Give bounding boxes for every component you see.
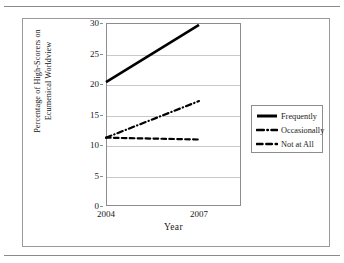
x-axis-ticks: 20042007 bbox=[106, 209, 241, 223]
chart-legend: FrequentlyOccasionallyNot at All bbox=[251, 105, 323, 153]
series-line-occasionally bbox=[106, 101, 199, 138]
y-axis-ticks: 051015202530 bbox=[73, 23, 103, 206]
y-tick-mark bbox=[100, 23, 103, 24]
series-line-not-at-all bbox=[106, 138, 199, 140]
y-tick-label: 15 bbox=[90, 110, 99, 119]
y-tick-mark bbox=[100, 115, 103, 116]
y-tick-label: 25 bbox=[90, 49, 99, 58]
figure-container: Percentage of High-Scorers on Ecumenical… bbox=[22, 18, 330, 247]
y-tick-label: 10 bbox=[90, 141, 99, 150]
y-tick-mark bbox=[100, 145, 103, 146]
y-axis-title-line-2: Ecumenical Worldview bbox=[43, 0, 54, 166]
legend-item[interactable]: Frequently bbox=[256, 109, 319, 123]
x-axis-title: Year bbox=[106, 222, 241, 232]
x-tick-label: 2004 bbox=[97, 209, 115, 219]
x-tick-label: 2007 bbox=[190, 209, 208, 219]
y-axis-title: Percentage of High-Scorers on Ecumenical… bbox=[32, 0, 60, 166]
y-tick-label: 5 bbox=[95, 171, 100, 180]
y-axis-title-line-1: Percentage of High-Scorers on bbox=[32, 0, 43, 166]
legend-swatch-solid-icon bbox=[256, 111, 278, 121]
legend-swatch-dash-dot-icon bbox=[256, 125, 278, 135]
legend-item[interactable]: Occasionally bbox=[256, 123, 319, 137]
page-rule-bottom bbox=[4, 255, 340, 256]
legend-label: Frequently bbox=[281, 112, 317, 121]
legend-swatch-dashed-icon bbox=[256, 139, 278, 149]
legend-label: Occasionally bbox=[281, 126, 324, 135]
y-tick-mark bbox=[100, 54, 103, 55]
series-layer bbox=[106, 23, 241, 206]
y-tick-mark bbox=[100, 176, 103, 177]
series-line-frequently bbox=[106, 25, 199, 82]
y-tick-mark bbox=[100, 84, 103, 85]
legend-item[interactable]: Not at All bbox=[256, 137, 319, 151]
y-tick-label: 30 bbox=[90, 19, 99, 28]
y-tick-label: 20 bbox=[90, 80, 99, 89]
y-tick-mark bbox=[100, 206, 103, 207]
legend-label: Not at All bbox=[281, 140, 314, 149]
